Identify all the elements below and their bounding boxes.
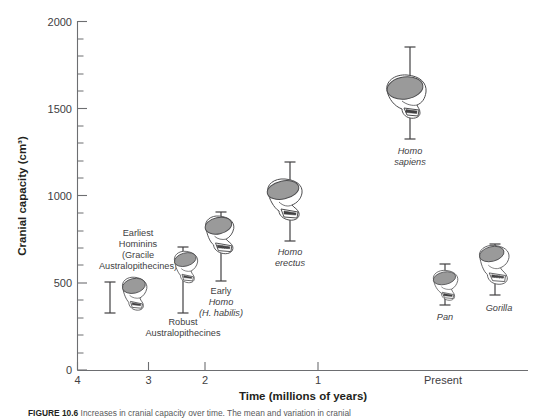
svg-text:Homo: Homo — [278, 247, 303, 257]
svg-text:(Gracile: (Gracile — [122, 250, 154, 260]
y-tick-labels: 2000 1500 1000 500 0 — [48, 16, 72, 377]
label-pan: Pan — [437, 312, 453, 322]
cranial-capacity-scatter-chart: 2000 1500 1000 500 0 4 3 2 1 Present Tim… — [0, 0, 536, 419]
skull-icon-earliest-hominins — [121, 276, 147, 310]
x-axis — [78, 362, 529, 371]
label-earliest-hominins: Earliest Hominins (Gracile Australopithe… — [99, 228, 177, 271]
x-tick-label-present: Present — [424, 374, 462, 386]
svg-text:Homo: Homo — [209, 297, 234, 307]
y-tick-label-500: 500 — [54, 277, 72, 289]
datapoint-homo-sapiens[interactable]: Homo sapiens — [386, 47, 427, 167]
svg-text:Australopithecines: Australopithecines — [145, 328, 220, 338]
svg-text:(H. habilis): (H. habilis) — [199, 308, 243, 318]
label-early-homo: Early Homo (H. habilis) — [199, 286, 243, 318]
svg-text:sapiens: sapiens — [394, 157, 426, 167]
figure-caption-text: Increases in cranial capacity over time.… — [78, 408, 351, 418]
figure-caption-label: FIGURE 10.6 — [28, 408, 78, 418]
y-axis — [78, 21, 88, 370]
datapoint-earliest-hominins[interactable]: Earliest Hominins (Gracile Australopithe… — [99, 228, 177, 313]
x-axis-title: Time (millions of years) — [239, 390, 367, 402]
y-axis-title: Cranial capacity (cm³) — [16, 136, 28, 256]
skull-icon-pan — [432, 270, 458, 300]
skull-icon-early-homo — [204, 215, 234, 254]
y-tick-label-1500: 1500 — [48, 103, 72, 115]
figure-caption: FIGURE 10.6 Increases in cranial capacit… — [28, 408, 528, 419]
skull-icon-robust-australopithecines — [173, 250, 198, 282]
skull-icon-homo-sapiens — [386, 75, 426, 119]
skull-icon-homo-erectus — [265, 178, 302, 220]
label-robust-australopithecines: Robust Australopithecines — [145, 317, 220, 338]
datapoint-gorilla[interactable]: Gorilla — [478, 244, 512, 313]
svg-text:Homo: Homo — [398, 146, 423, 156]
y-tick-label-2000: 2000 — [48, 16, 72, 28]
svg-text:Hominins: Hominins — [119, 239, 158, 249]
svg-text:Earliest: Earliest — [123, 228, 154, 238]
x-tick-labels: 4 3 2 1 Present — [74, 374, 462, 386]
x-tick-label-2: 2 — [202, 374, 208, 386]
svg-text:Early: Early — [211, 286, 232, 296]
label-homo-sapiens: Homo sapiens — [394, 146, 426, 167]
label-gorilla: Gorilla — [486, 303, 513, 313]
svg-text:Robust: Robust — [168, 317, 198, 327]
errorbar-earliest-hominins — [105, 282, 116, 313]
skull-icon-gorilla — [478, 244, 509, 284]
figure-container: 2000 1500 1000 500 0 4 3 2 1 Present Tim… — [0, 0, 536, 419]
datapoint-early-homo[interactable]: Early Homo (H. habilis) — [199, 212, 243, 318]
x-tick-label-1: 1 — [315, 374, 321, 386]
label-homo-erectus: Homo erectus — [275, 247, 306, 268]
svg-text:Australopithecines): Australopithecines) — [99, 261, 177, 271]
y-tick-label-1000: 1000 — [48, 190, 72, 202]
x-tick-label-3: 3 — [145, 374, 151, 386]
datapoint-homo-erectus[interactable]: Homo erectus — [265, 162, 305, 268]
y-tick-label-0: 0 — [66, 364, 72, 376]
datapoint-pan[interactable]: Pan — [432, 264, 458, 322]
svg-text:erectus: erectus — [275, 258, 306, 268]
x-tick-label-4: 4 — [74, 374, 80, 386]
